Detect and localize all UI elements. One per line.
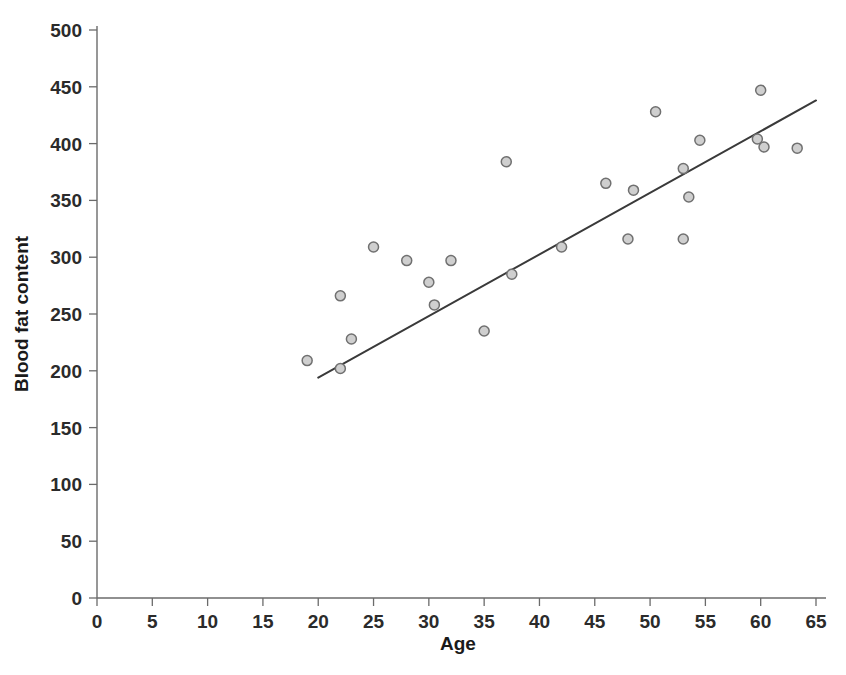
data-point-marker — [759, 142, 769, 152]
data-point-marker — [302, 356, 312, 366]
scatter-chart-figure: 050100150200250300350400450500 051015202… — [0, 0, 846, 675]
x-tick-label: 10 — [197, 611, 218, 632]
data-point-marker — [756, 85, 766, 95]
x-tick-label: 30 — [418, 611, 439, 632]
x-tick-label: 25 — [363, 611, 385, 632]
data-point-marker — [507, 269, 517, 279]
data-point-marker — [335, 291, 345, 301]
x-tick-label: 35 — [474, 611, 496, 632]
y-tick-label: 500 — [50, 20, 82, 41]
data-point-marker — [369, 242, 379, 252]
y-axis-title: Blood fat content — [11, 235, 32, 392]
data-point-marker — [623, 234, 633, 244]
x-tick-label: 5 — [147, 611, 158, 632]
data-point-marker — [557, 242, 567, 252]
x-tick-label: 15 — [252, 611, 274, 632]
data-point-marker — [501, 157, 511, 167]
y-tick-label: 150 — [50, 418, 82, 439]
data-point-marker — [684, 192, 694, 202]
y-tick-label: 50 — [61, 531, 82, 552]
y-tick-label: 350 — [50, 190, 82, 211]
data-point-marker — [479, 326, 489, 336]
trend-line — [318, 100, 816, 377]
x-tick-label: 55 — [695, 611, 717, 632]
data-point-marker — [601, 178, 611, 188]
x-tick-label: 65 — [805, 611, 827, 632]
y-tick-label: 100 — [50, 474, 82, 495]
y-tick-label: 250 — [50, 304, 82, 325]
x-tick-label: 40 — [529, 611, 550, 632]
x-tick-label: 50 — [640, 611, 661, 632]
y-tick-label: 300 — [50, 247, 82, 268]
y-axis: 050100150200250300350400450500 — [50, 20, 97, 609]
x-tick-label: 20 — [308, 611, 329, 632]
y-tick-label: 0 — [71, 588, 82, 609]
data-point-marker — [346, 334, 356, 344]
data-point-marker — [792, 143, 802, 153]
y-tick-label: 450 — [50, 77, 82, 98]
data-point-marker — [335, 364, 345, 374]
x-tick-label: 60 — [750, 611, 771, 632]
data-point-marker — [695, 135, 705, 145]
x-tick-label: 45 — [584, 611, 606, 632]
x-axis: 05101520253035404550556065 — [92, 598, 827, 632]
data-point-marker — [402, 256, 412, 266]
data-point-marker — [628, 185, 638, 195]
data-point-marker — [429, 300, 439, 310]
x-axis-title: Age — [440, 633, 476, 654]
chart-canvas: 050100150200250300350400450500 051015202… — [0, 0, 846, 675]
data-point-marker — [678, 234, 688, 244]
trend-line-segment — [318, 100, 816, 377]
x-tick-label: 0 — [92, 611, 103, 632]
data-point-marker — [446, 256, 456, 266]
data-point-marker — [651, 107, 661, 117]
y-tick-label: 400 — [50, 134, 82, 155]
data-points — [302, 85, 802, 373]
y-tick-label: 200 — [50, 361, 82, 382]
data-point-marker — [678, 164, 688, 174]
data-point-marker — [424, 277, 434, 287]
